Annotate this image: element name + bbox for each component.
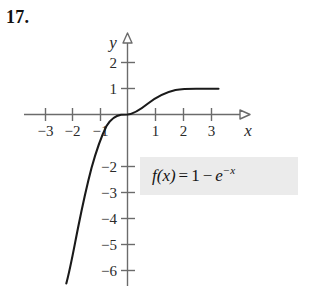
y-tick-label--6: −6 [101,263,117,279]
formula-minus-sign: − [200,166,216,185]
x-tick-label-1: 1 [152,123,160,139]
function-graph: −3 −2 −1 1 2 3 2 1 −2 −3 −4 −5 −6 y x [0,0,310,286]
formula-equals-sign: = [176,166,192,185]
exercise-figure: 17. [0,0,310,286]
y-axis [123,33,132,286]
y-tick-label--2: −2 [101,159,117,175]
formula-exp-base: e [215,166,223,185]
y-axis-arrow-icon [123,33,132,43]
x-axis-arrow-icon [240,110,250,119]
x-tick-label--3: −3 [38,123,54,139]
x-tick-label--2: −2 [65,123,81,139]
formula-argument: (x) [157,166,176,185]
y-tick-label--5: −5 [101,237,117,253]
y-tick-label-1: 1 [110,81,118,97]
y-tick-label-2: 2 [110,55,118,71]
x-tick-label-2: 2 [180,123,188,139]
x-tick-label-3: 3 [208,123,216,139]
x-axis-label: x [243,121,252,140]
formula-exponent: −x [223,164,235,176]
y-tick-label--4: −4 [101,211,117,227]
y-axis-label: y [107,33,117,52]
y-tick-label--3: −3 [101,185,117,201]
formula-label: f(x)=1−e−x [152,163,235,189]
formula-constant-one: 1 [191,166,200,185]
